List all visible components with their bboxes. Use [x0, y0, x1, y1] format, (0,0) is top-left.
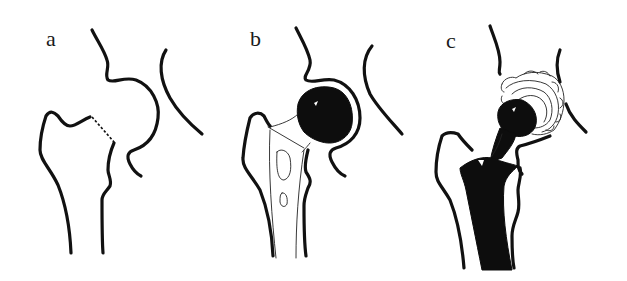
femur-medial-cortex	[102, 143, 114, 253]
femur-lateral-cortex	[436, 133, 472, 268]
total-hip-replacement-illustration	[420, 0, 627, 281]
femur-lateral-cortex	[40, 112, 90, 253]
stem-neck	[270, 114, 298, 127]
panel-b: b	[210, 0, 420, 281]
femur-medial-cortex	[512, 168, 521, 268]
femur-medial-cortex	[304, 150, 310, 256]
acetabulum-outline	[92, 30, 158, 176]
femur-lateral-cortex	[243, 113, 273, 256]
stem-window-upper	[277, 150, 291, 180]
pelvic-wall	[557, 50, 586, 132]
stem-collar	[268, 127, 304, 148]
pelvic-wall	[364, 46, 402, 134]
pelvic-wall	[161, 50, 202, 134]
acetabulum-upper-outline	[490, 26, 500, 74]
native-hip-illustration	[0, 0, 210, 281]
panel-c: c	[420, 0, 627, 281]
prosthetic-femoral-head	[297, 87, 352, 143]
hemiarthroplasty-illustration	[210, 0, 420, 281]
panel-a: a	[0, 0, 210, 281]
femoral-stem	[460, 157, 518, 270]
stem-window-lower	[280, 193, 287, 207]
prosthetic-neck	[490, 128, 516, 162]
osteotomy-dash-line	[92, 117, 114, 142]
